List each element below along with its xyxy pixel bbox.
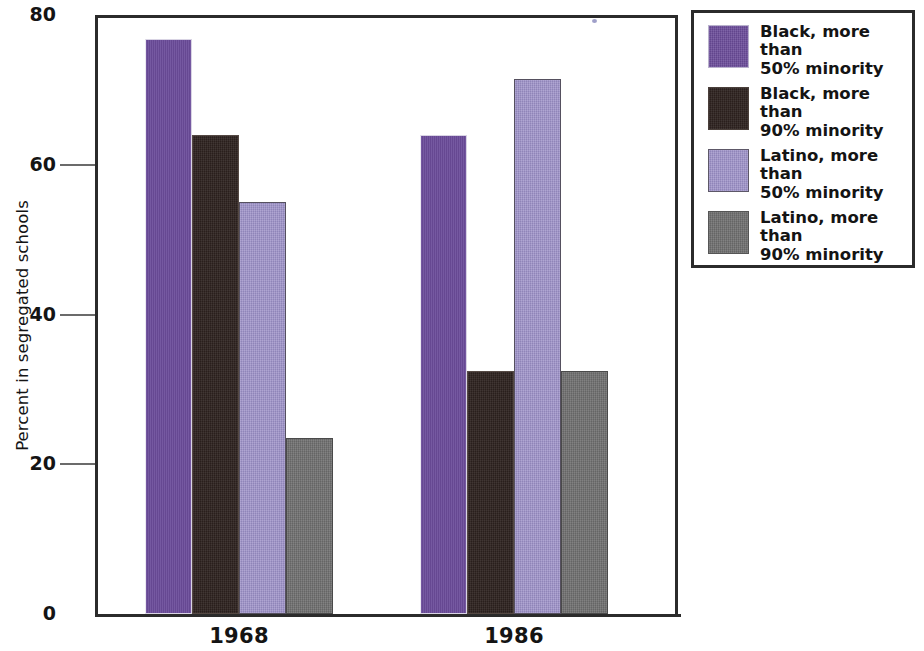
y-axis-tick-label: 20 (0, 454, 56, 473)
bar-1968-series0 (145, 39, 192, 614)
y-axis-title-text: Percent in segregated schools (13, 200, 32, 451)
x-axis-label-1968: 1968 (139, 624, 339, 648)
legend-swatch-black-50 (708, 25, 749, 68)
legend-swatch-latino-90 (708, 211, 749, 254)
y-axis-tick (60, 314, 95, 316)
y-axis-line (95, 15, 98, 617)
legend-item[interactable]: Black, more than 50% minority (708, 23, 912, 73)
scan-artifact-speck (592, 19, 597, 23)
bar-1986-series1 (467, 371, 514, 614)
y-axis-tick (60, 164, 95, 166)
x-axis-label-1986: 1986 (414, 624, 614, 648)
bar-1986-series0 (420, 135, 467, 614)
chart-legend: Black, more than 50% minority Black, mor… (691, 10, 915, 268)
legend-item[interactable]: Black, more than 90% minority (708, 85, 912, 135)
bar-1968-series3 (286, 438, 333, 614)
bar-1968-series1 (192, 135, 239, 614)
plot-frame-top (95, 15, 678, 18)
y-axis-tick-label: 80 (0, 5, 56, 24)
y-axis-tick-label: 40 (0, 305, 56, 324)
bar-1986-series2 (514, 79, 561, 614)
legend-label-black-50: Black, more than 50% minority (760, 23, 912, 78)
legend-item[interactable]: Latino, more than 90% minority (708, 209, 912, 259)
legend-item[interactable]: Latino, more than 50% minority (708, 147, 912, 197)
plot-frame-right (675, 15, 678, 617)
legend-label-black-90: Black, more than 90% minority (760, 85, 912, 140)
y-axis-tick-label: 60 (0, 155, 56, 174)
y-axis-tick (60, 463, 95, 465)
legend-label-latino-50: Latino, more than 50% minority (760, 147, 912, 202)
legend-swatch-black-90 (708, 87, 749, 130)
legend-swatch-latino-50 (708, 149, 749, 192)
bar-1968-series2 (239, 202, 286, 614)
bar-1986-series3 (561, 371, 608, 614)
x-axis-line (95, 614, 681, 617)
y-axis-tick-label: 0 (0, 604, 56, 623)
legend-label-latino-90: Latino, more than 90% minority (760, 209, 912, 264)
y-axis-title: Percent in segregated schools (0, 0, 44, 651)
